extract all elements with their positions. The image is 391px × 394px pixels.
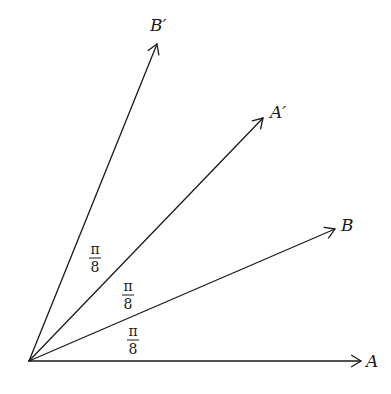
vector-label-A_prime: A′ bbox=[268, 102, 286, 122]
angle-Aprime-Bprime-fraction: π8 bbox=[89, 241, 101, 275]
angle-B-Aprime-fraction: π8 bbox=[122, 278, 134, 312]
fraction-numerator: π bbox=[90, 241, 99, 257]
vector-label-B: B bbox=[340, 215, 354, 235]
fraction-numerator: π bbox=[123, 278, 132, 294]
vector-line-A_prime bbox=[29, 118, 263, 361]
vectors bbox=[29, 44, 361, 367]
vector-labels: ABA′B′ bbox=[149, 15, 378, 371]
fraction-denominator: 8 bbox=[91, 259, 100, 275]
vector-rotation-diagram: ABA′B′ π8π8π8 bbox=[0, 0, 391, 394]
vector-A bbox=[29, 355, 361, 366]
angle-A-B-fraction: π8 bbox=[127, 323, 139, 357]
vector-A_prime bbox=[29, 118, 263, 361]
vector-label-A: A bbox=[364, 351, 378, 371]
vector-label-B_prime: B′ bbox=[149, 15, 166, 35]
fraction-numerator: π bbox=[128, 323, 137, 339]
angle-labels: π8π8π8 bbox=[89, 241, 139, 357]
fraction-denominator: 8 bbox=[129, 341, 138, 357]
fraction-denominator: 8 bbox=[124, 296, 133, 312]
